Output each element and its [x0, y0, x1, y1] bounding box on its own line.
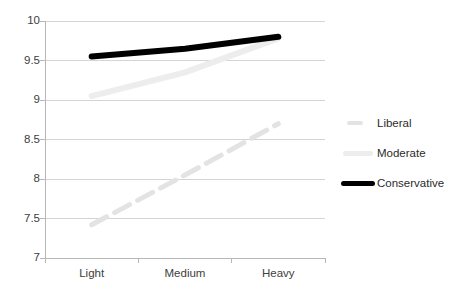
- x-axis-labels: Light Medium Heavy: [45, 262, 325, 284]
- gridlines: [45, 21, 325, 258]
- legend-label-moderate: Moderate: [377, 147, 426, 159]
- y-axis-tick-label-8.5: 8.5: [4, 134, 40, 146]
- y-axis-tick-label-10: 10: [4, 15, 40, 27]
- y-axis-tick-label-7: 7: [4, 252, 40, 264]
- legend-item-moderate: Moderate: [341, 138, 467, 168]
- legend-item-conservative: Conservative: [341, 168, 467, 198]
- line-chart: 77.588.599.510 Light Medium Heavy Libera…: [0, 0, 467, 299]
- y-axis-tick-label-8: 8: [4, 173, 40, 185]
- legend-item-liberal: Liberal: [341, 108, 467, 138]
- legend-key-moderate-icon: [341, 146, 375, 160]
- y-axis-tick-label-9.5: 9.5: [4, 55, 40, 67]
- series-lines: [92, 37, 279, 225]
- y-axis-tick-label-9: 9: [4, 94, 40, 106]
- legend-key-conservative-icon: [341, 176, 375, 190]
- series-line-liberal: [92, 124, 279, 225]
- legend-label-liberal: Liberal: [377, 117, 412, 129]
- legend-key-liberal-icon: [341, 116, 375, 130]
- legend-label-conservative: Conservative: [377, 177, 444, 189]
- x-axis-tick-label-2: Heavy: [232, 262, 325, 284]
- x-axis-tick-label-0: Light: [45, 262, 138, 284]
- x-axis-tick-label-1: Medium: [138, 262, 231, 284]
- y-axis-labels: 77.588.599.510: [0, 0, 40, 299]
- chart-legend: Liberal Moderate Conservative: [341, 108, 467, 198]
- y-axis-tick-label-7.5: 7.5: [4, 213, 40, 225]
- x-axis-tick-marks: [40, 21, 325, 263]
